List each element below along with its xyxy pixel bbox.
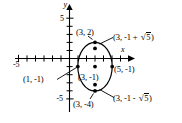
radicand-upper: 5	[146, 32, 152, 42]
label-covertex-left: (1, -1)	[23, 75, 44, 84]
radicand-lower: 5	[144, 93, 150, 103]
label-focus-lower-suffix: )	[149, 93, 152, 103]
radical-sign-upper: √	[141, 32, 146, 42]
leader-line-vertex-top	[88, 36, 93, 40]
label-focus-lower-prefix: (3, -1 -	[113, 93, 138, 103]
point-focus-upper	[93, 47, 97, 51]
label-vertex-top: (3, 2)	[76, 28, 94, 37]
point-focus-lower	[93, 83, 97, 87]
x-axis-label: x	[121, 46, 124, 54]
y-axis-label: y	[64, 1, 67, 9]
point-vertex-top	[93, 40, 97, 44]
label-focus-upper-prefix: (3, -1 +	[113, 32, 140, 42]
radical-lower: √5	[138, 93, 149, 103]
label-focus-upper-suffix: )	[151, 32, 154, 42]
y-tick-label-five: 5	[60, 15, 64, 23]
y-axis-arrowhead	[66, 4, 72, 10]
point-covertex-left	[76, 65, 80, 69]
label-covertex-right: (5, -1)	[114, 65, 135, 74]
label-vertex-bottom: (3, -4)	[73, 100, 94, 109]
point-center	[93, 65, 97, 69]
radical-upper: √5	[140, 32, 151, 42]
x-axis-arrowhead	[128, 55, 135, 61]
label-center: (3, -1)	[78, 73, 99, 82]
label-focus-lower: (3, -1 - √5)	[113, 93, 152, 103]
y-tick-label-negative-five: -5	[57, 95, 63, 103]
leader-line-focus-upper	[100, 38, 114, 45]
ellipse-graph-figure: x y -5 5 -5 (3, 2) (3, -1 + √5) (3, -1 -…	[0, 0, 182, 123]
point-vertex-bottom	[93, 89, 97, 93]
leader-line-focus-lower	[100, 90, 115, 98]
leader-line-vertex-left	[57, 68, 77, 80]
label-focus-upper: (3, -1 + √5)	[113, 32, 154, 42]
x-tick-label-negative-five: -5	[13, 61, 19, 69]
radical-sign-lower: √	[139, 93, 144, 103]
